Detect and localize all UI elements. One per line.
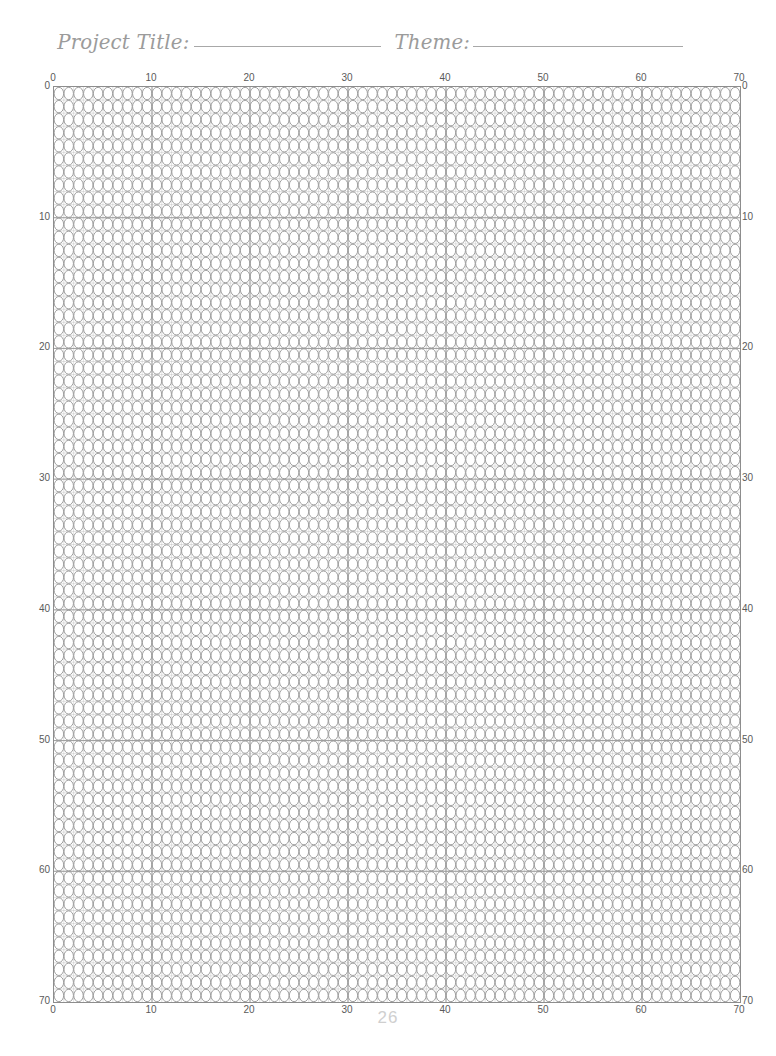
header: Project Title: Theme: [0,0,776,68]
axis-tick-right-40: 40 [739,604,753,614]
minor-gridlines [54,87,740,1002]
bead-grid-block: 0102030405060700102030405060700102030405… [53,86,739,1001]
axis-tick-right-20: 20 [739,342,753,352]
axis-tick-left-60: 60 [39,865,53,875]
axis-tick-top-10: 10 [145,73,156,83]
page-number: 26 [0,1008,776,1028]
axis-tick-left-20: 20 [39,342,53,352]
axis-tick-right-60: 60 [739,865,753,875]
axis-tick-right-70: 70 [739,996,753,1006]
axis-tick-top-60: 60 [635,73,646,83]
axis-tick-right-0: 0 [739,81,748,91]
axis-tick-left-30: 30 [39,473,53,483]
axis-tick-right-30: 30 [739,473,753,483]
theme-field[interactable]: Theme: [392,30,683,54]
project-title-label: Project Title: [57,30,189,54]
project-title-field[interactable]: Project Title: [53,30,381,54]
axis-tick-left-10: 10 [39,212,53,222]
theme-label: Theme: [394,30,470,54]
axis-tick-top-50: 50 [537,73,548,83]
axis-tick-top-20: 20 [243,73,254,83]
axis-tick-left-40: 40 [39,604,53,614]
axis-tick-left-0: 0 [44,81,53,91]
axis-tick-right-50: 50 [739,735,753,745]
project-title-input-rule[interactable] [194,46,381,47]
axis-tick-top-30: 30 [341,73,352,83]
axis-tick-left-50: 50 [39,735,53,745]
axis-tick-left-70: 70 [39,996,53,1006]
bead-grid[interactable] [53,86,741,1003]
axis-tick-right-10: 10 [739,212,753,222]
axis-tick-top-40: 40 [439,73,450,83]
bead-grid-canvas [54,87,740,1002]
theme-input-rule[interactable] [473,46,683,47]
